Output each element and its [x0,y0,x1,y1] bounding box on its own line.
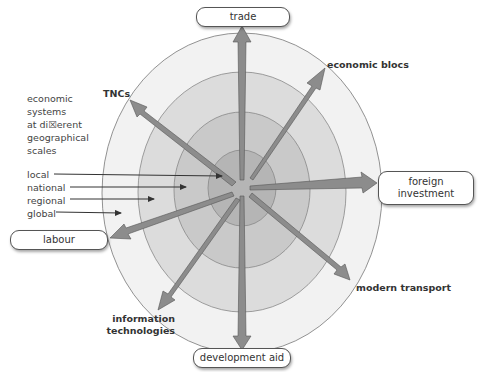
scale-global: global [27,207,66,220]
legend-title: economic systems at di☒erent geographica… [27,92,89,157]
label-modern-transport: modern transport [356,282,451,294]
scale-local: local [27,168,66,181]
scale-national: national [27,181,66,194]
legend-line: scales [27,144,89,157]
legend-line: systems [27,105,89,118]
label-text: investment [398,188,454,200]
label-line: technologies [97,325,175,337]
label-economic-blocs: economic blocs [327,59,409,71]
label-text: labour [43,234,75,246]
scale-legend: local national regional global [27,168,66,220]
label-information-technologies: information technologies [97,313,175,337]
legend-line: at di☒erent [27,118,89,131]
label-trade: trade [196,7,290,27]
label-line: information [97,313,175,325]
label-text: foreign [408,176,443,188]
legend-line: geographical [27,131,89,144]
scale-regional: regional [27,194,66,207]
label-foreign-investment: foreign investment [378,171,474,205]
label-text: trade [230,11,257,23]
label-development-aid: development aid [193,348,291,368]
label-labour: labour [10,230,108,250]
legend-line: economic [27,92,89,105]
label-text: development aid [200,352,284,364]
label-tncs: TNCs [103,88,130,100]
